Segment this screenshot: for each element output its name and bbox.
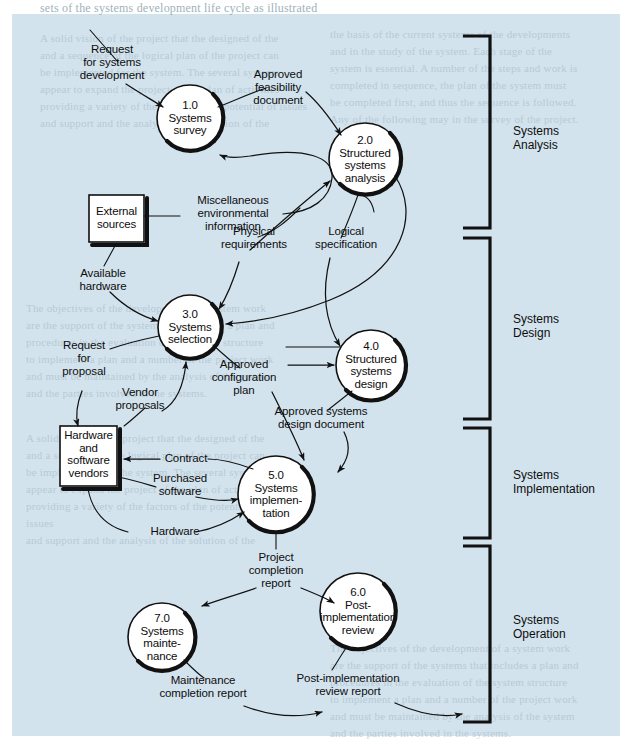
flow-physical-requirements-label: Physical requirements (214, 225, 294, 251)
flow-contract-label: Contract (156, 452, 216, 465)
flow-logical-specification-label: Logical specification (302, 225, 390, 251)
flow-request-for-proposal-label: Request for proposal (48, 339, 120, 378)
flow-hardware-label: Hardware (142, 525, 208, 538)
phase-systems-operation-label: Systems Operation (513, 613, 632, 641)
flow-vendor-proposals-label: Vendor proposals (102, 386, 178, 412)
flow-maintenance-completion-report-label: Maintenance completion report (140, 674, 266, 700)
entity-hardware-software-vendors-label: Hardware and software vendors (60, 429, 117, 479)
process-6-label: 6.0 Post- implementation review (310, 586, 406, 636)
flow-available-hardware-label: Available hardware (62, 267, 144, 293)
flow-approved-feasibility-document-label: Approved feasibility document (238, 68, 318, 107)
phase-systems-analysis-label: Systems Analysis (513, 124, 632, 152)
process-1-label: 1.0 Systems survey (155, 99, 225, 137)
flow-request-for-systems-development-label: Request for systems development (60, 43, 164, 82)
process-4-label: 4.0 Structured systems design (336, 340, 406, 390)
flow-approved-systems-design-document-label: Approved systems design document (264, 405, 378, 431)
process-3-label: 3.0 Systems selection (155, 308, 225, 346)
process-7-label: 7.0 Systems mainte- nance (127, 612, 197, 662)
flow-project-completion-report-label: Project completion report (238, 551, 314, 590)
flow-post-implementation-review-report-label: Post-implementation review report (284, 672, 412, 698)
flow-approved-configuration-plan-label: Approved configuration plan (200, 358, 288, 397)
phase-systems-implementation-label: Systems Implementation (513, 468, 632, 496)
scanned-page: sets of the systems development life cyc… (0, 0, 632, 744)
process-2-label: 2.0 Structured systems analysis (330, 134, 400, 184)
phase-systems-design-label: Systems Design (513, 312, 632, 340)
flow-purchased-software-label: Purchased software (144, 472, 216, 498)
entity-external-sources-label: External sources (89, 205, 144, 230)
process-5-label: 5.0 Systems implemen- tation (236, 469, 316, 519)
